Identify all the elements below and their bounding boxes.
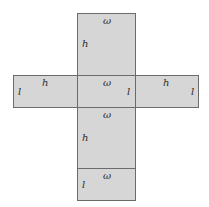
label-right-side-height: h: [163, 78, 169, 88]
label-top-flap-height: h: [82, 39, 88, 49]
label-left-side-height: h: [42, 78, 48, 88]
label-center-base-width: ω: [103, 78, 111, 88]
label-left-side-length: l: [18, 87, 21, 97]
label-right-side-length: l: [191, 87, 194, 97]
label-top-flap-width: ω: [103, 16, 111, 26]
label-bottom-lid-width: ω: [103, 171, 111, 181]
label-bottom-lid-length: l: [82, 180, 85, 190]
label-bottom-flap-width: ω: [103, 110, 111, 120]
label-center-base-length: l: [127, 87, 130, 97]
label-bottom-flap-height: h: [82, 133, 88, 143]
